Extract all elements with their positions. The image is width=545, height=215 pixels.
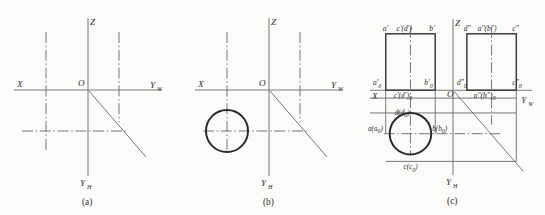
axis-label-yh-sub-c: H xyxy=(452,183,458,189)
panel-caption-a: (a) xyxy=(82,197,92,208)
axis-label-origin-b: O xyxy=(259,78,266,88)
label-a-a0-c: a(a0) xyxy=(368,125,384,134)
panel-caption-b: (b) xyxy=(263,197,274,208)
label-a-b-double-prime-c: a″(b″) xyxy=(478,24,497,33)
panel-a: X Z O Y W Y H (a) xyxy=(0,0,181,215)
axis-label-yw-a: Y xyxy=(150,80,156,90)
label-d-d0-c: d(d0) xyxy=(395,109,411,118)
axis-label-origin-a: O xyxy=(78,78,85,88)
axis-label-z-b: Z xyxy=(271,17,277,27)
axis-label-yh-b: Y xyxy=(261,178,267,188)
mitre-line-c xyxy=(454,91,523,171)
mitre-line-a xyxy=(89,91,146,157)
axis-label-yw-b: Y xyxy=(331,80,337,90)
axis-label-yw-sub-a: W xyxy=(157,86,163,92)
label-c-double-prime-c: c″ xyxy=(512,24,519,33)
axis-label-z-a: Z xyxy=(90,17,96,27)
axis-label-yw-sub-c: W xyxy=(528,101,534,107)
mitre-line-b xyxy=(270,91,327,157)
axis-label-x-b: X xyxy=(197,79,204,89)
label-c-prime-d-prime-c: c′(d′) xyxy=(397,24,413,33)
axis-label-x-a: X xyxy=(16,79,23,89)
label-c0-prime-d0-prime-c: c′(d′)0 xyxy=(394,91,412,101)
label-d-double-prime-c: d″ xyxy=(464,24,472,33)
axis-label-origin-c: O xyxy=(447,89,454,99)
panel-c: X Z O Y W Y H a′ c′(d′) b′ d″ a″(b″) c″ … xyxy=(362,0,543,215)
axis-label-x-c: X xyxy=(371,91,378,101)
axis-label-yw-c: Y xyxy=(521,95,527,105)
axis-label-yh-sub-a: H xyxy=(86,184,92,190)
label-c-c0-c: c(c0) xyxy=(404,163,419,172)
axis-label-yh-sub-b: H xyxy=(267,184,273,190)
panel-caption-c: (c) xyxy=(447,196,457,207)
axis-label-yh-c: Y xyxy=(446,177,452,187)
axis-label-yh-a: Y xyxy=(80,178,86,188)
axis-label-z-c: Z xyxy=(455,18,461,28)
projection-figure: X Z O Y W Y H (a) X Z O Y W Y H xyxy=(0,0,545,215)
label-a-prime-c: a′ xyxy=(383,24,389,33)
label-a0-prime-c: a′0 xyxy=(373,78,381,88)
axis-label-yw-sub-b: W xyxy=(338,86,344,92)
label-a0-b0-double-prime-c: a″(b″)0 xyxy=(474,91,496,101)
label-c0-double-prime-c: c″0 xyxy=(512,78,521,88)
label-b0-prime-c: b′0 xyxy=(424,78,432,88)
panel-b: X Z O Y W Y H (b) xyxy=(181,0,362,215)
label-b-b0-c: b(b0) xyxy=(432,125,448,134)
label-d0-double-prime-c: d″0 xyxy=(457,78,467,88)
label-b-prime-c: b′ xyxy=(429,24,435,33)
